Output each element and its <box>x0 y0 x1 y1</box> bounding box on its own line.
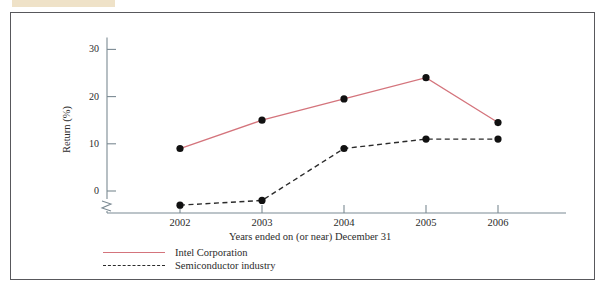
x-tick-label: 2005 <box>404 217 448 228</box>
legend-label: Semiconductor industry <box>175 260 276 271</box>
legend-label: Intel Corporation <box>175 247 248 258</box>
legend-swatch-dashed-line <box>103 261 165 271</box>
y-tick-label: 30 <box>77 43 99 54</box>
legend-swatch-solid-line <box>103 248 165 258</box>
legend-item-intel: Intel Corporation <box>103 246 276 259</box>
y-axis-title: Return (%) <box>61 106 72 153</box>
x-tick-label: 2003 <box>240 217 284 228</box>
page-top-strip <box>0 0 605 12</box>
x-tick-label: 2002 <box>158 217 202 228</box>
figure-page: 0 10 20 30 2002 2003 2004 2005 2006 Retu… <box>0 0 605 291</box>
line-chart: 0 10 20 30 2002 2003 2004 2005 2006 Retu… <box>11 13 596 281</box>
figure-frame: 0 10 20 30 2002 2003 2004 2005 2006 Retu… <box>10 12 595 280</box>
y-tick-label: 0 <box>77 185 99 196</box>
chart-legend: Intel Corporation Semiconductor industry <box>103 246 276 272</box>
legend-item-semiconductor: Semiconductor industry <box>103 259 276 272</box>
x-tick-label: 2004 <box>322 217 366 228</box>
x-tick-label: 2006 <box>476 217 520 228</box>
highlight-bar <box>12 0 115 7</box>
x-axis-title: Years ended on (or near) December 31 <box>229 231 391 242</box>
y-tick-label: 20 <box>77 91 99 102</box>
y-tick-label: 10 <box>77 138 99 149</box>
